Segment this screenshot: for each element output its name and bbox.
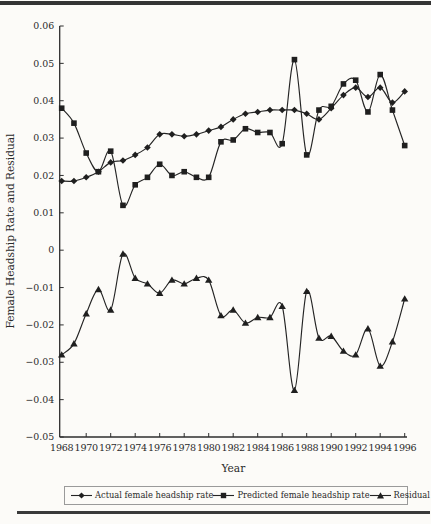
x-tick-label: 1972: [99, 442, 122, 453]
x-tick-label: 1982: [222, 442, 245, 453]
actual-series: [58, 84, 408, 184]
predicted-data-point-square-icon: [218, 139, 224, 145]
actual-data-point-diamond-icon: [254, 109, 261, 116]
residual-data-point-triangle-icon: [83, 310, 90, 316]
x-tick-label: 1978: [173, 442, 196, 453]
predicted-data-point-square-icon: [255, 130, 261, 136]
actual-data-point-diamond-icon: [169, 131, 176, 138]
legend-marker-diamond-icon: [71, 491, 92, 500]
residual-data-point-triangle-icon: [132, 275, 139, 281]
legend-item-label: Predicted female headship rate: [237, 490, 369, 500]
actual-data-point-diamond-icon: [71, 178, 78, 185]
actual-data-point-diamond-icon: [205, 127, 212, 134]
predicted-data-point-square-icon: [108, 148, 114, 154]
residual-data-point-triangle-icon: [291, 387, 298, 393]
actual-data-point-diamond-icon: [181, 133, 188, 140]
x-tick-label: 1980: [197, 442, 220, 453]
actual-data-point-diamond-icon: [242, 111, 249, 118]
predicted-data-point-square-icon: [169, 173, 175, 179]
predicted-data-point-square-icon: [132, 182, 138, 188]
y-tick-label: 0.04: [33, 95, 54, 106]
predicted-data-point-square-icon: [267, 130, 273, 136]
predicted-data-point-square-icon: [96, 169, 102, 175]
residual-series-markers: [58, 250, 408, 393]
predicted-data-point-square-icon: [353, 77, 359, 83]
x-tick-label: 1968: [50, 442, 73, 453]
x-tick-label: 1974: [124, 442, 147, 453]
y-tick-label: 0.03: [33, 132, 54, 143]
predicted-data-point-square-icon: [390, 107, 396, 113]
legend-marker-square-icon: [213, 491, 234, 500]
residual-data-point-triangle-icon: [328, 333, 335, 339]
x-tick-label: 1970: [75, 442, 98, 453]
predicted-data-point-square-icon: [181, 169, 187, 175]
x-tick-label: 1992: [344, 442, 367, 453]
y-tick-label: −0.04: [25, 394, 54, 405]
residual-data-point-triangle-icon: [352, 351, 359, 357]
legend-item-residual: Residual: [370, 490, 430, 500]
actual-data-point-diamond-icon: [279, 107, 286, 114]
x-tick-label: 1996: [393, 442, 416, 453]
residual-data-point-triangle-icon: [70, 340, 77, 346]
y-tick-label: 0.06: [33, 20, 54, 31]
x-tick-label: 1990: [320, 442, 343, 453]
residual-data-point-triangle-icon: [217, 312, 224, 318]
predicted-data-point-square-icon: [157, 161, 163, 167]
actual-data-point-diamond-icon: [193, 131, 200, 138]
x-tick-label: 1984: [246, 442, 269, 453]
actual-data-point-diamond-icon: [303, 111, 310, 118]
predicted-data-point-square-icon: [59, 105, 65, 111]
predicted-series: [59, 57, 408, 208]
legend-box: Actual female headship rate Predicted fe…: [64, 486, 408, 505]
predicted-data-point-square-icon: [402, 143, 408, 149]
predicted-data-point-square-icon: [120, 203, 126, 209]
residual-data-point-triangle-icon: [401, 295, 408, 301]
predicted-data-point-square-icon: [292, 57, 298, 63]
predicted-data-point-square-icon: [377, 72, 383, 78]
actual-series-markers: [58, 84, 408, 184]
predicted-data-point-square-icon: [328, 104, 334, 110]
actual-data-point-diamond-icon: [230, 116, 237, 123]
predicted-series-markers: [59, 57, 408, 208]
actual-data-point-diamond-icon: [267, 107, 274, 114]
predicted-data-point-square-icon: [243, 126, 249, 132]
x-tick-label: 1994: [369, 442, 392, 453]
residual-data-point-triangle-icon: [144, 280, 151, 286]
predicted-data-point-square-icon: [365, 109, 371, 115]
legend-marker-triangle-icon: [370, 491, 391, 500]
legend-item-label: Actual female headship rate: [95, 490, 213, 500]
residual-data-point-triangle-icon: [364, 325, 371, 331]
bottom-rule: [17, 511, 430, 514]
predicted-data-point-square-icon: [83, 150, 89, 156]
actual-data-point-diamond-icon: [291, 107, 298, 114]
predicted-data-point-square-icon: [145, 175, 151, 181]
predicted-data-point-square-icon: [194, 175, 200, 181]
page-frame: 0.060.050.040.030.020.010−0.01−0.02−0.03…: [0, 0, 431, 524]
residual-data-point-triangle-icon: [95, 286, 102, 292]
y-tick-label: −0.03: [25, 356, 54, 367]
legend-item-predicted: Predicted female headship rate: [213, 490, 369, 500]
legend-item-actual: Actual female headship rate: [71, 490, 213, 500]
headship-rate-chart: 0.060.050.040.030.020.010−0.01−0.02−0.03…: [0, 0, 431, 480]
y-tick-label: −0.01: [25, 282, 54, 293]
x-tick-label: 1976: [148, 442, 171, 453]
predicted-data-point-square-icon: [341, 81, 347, 87]
actual-data-point-diamond-icon: [218, 124, 225, 131]
actual-data-point-diamond-icon: [83, 174, 90, 181]
residual-data-point-triangle-icon: [279, 303, 286, 309]
x-tick-label: 1986: [271, 442, 294, 453]
residual-data-point-triangle-icon: [303, 288, 310, 294]
actual-data-point-diamond-icon: [132, 152, 139, 159]
predicted-data-point-square-icon: [230, 137, 236, 143]
residual-series: [58, 250, 408, 393]
x-axis-title: Year: [220, 462, 246, 474]
y-tick-label: 0.02: [33, 170, 54, 181]
y-tick-label: 0.05: [33, 58, 54, 69]
y-axis-title: Female Headship Rate and Residual: [4, 133, 16, 329]
predicted-data-point-square-icon: [279, 141, 285, 147]
x-tick-label: 1988: [295, 442, 318, 453]
y-tick-label: 0: [48, 244, 54, 255]
residual-data-point-triangle-icon: [230, 306, 237, 312]
legend-item-label: Residual: [394, 490, 430, 500]
actual-data-point-diamond-icon: [365, 94, 372, 101]
